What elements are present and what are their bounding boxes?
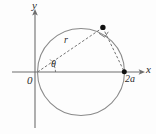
radius-label: r	[64, 35, 68, 45]
polar-circle-diagram: y x 0 θ r 2a	[0, 0, 156, 134]
chord-segment	[103, 28, 124, 72]
y-axis-label: y	[32, 0, 37, 11]
diagram-canvas	[0, 0, 156, 134]
point-on-circle-dot	[100, 25, 105, 30]
radius-vector-segment	[38, 28, 103, 72]
diameter-point-label: 2a	[125, 74, 135, 84]
x-axis-label: x	[146, 64, 151, 75]
theta-angle-label: θ	[51, 59, 56, 69]
origin-label: 0	[27, 75, 33, 86]
